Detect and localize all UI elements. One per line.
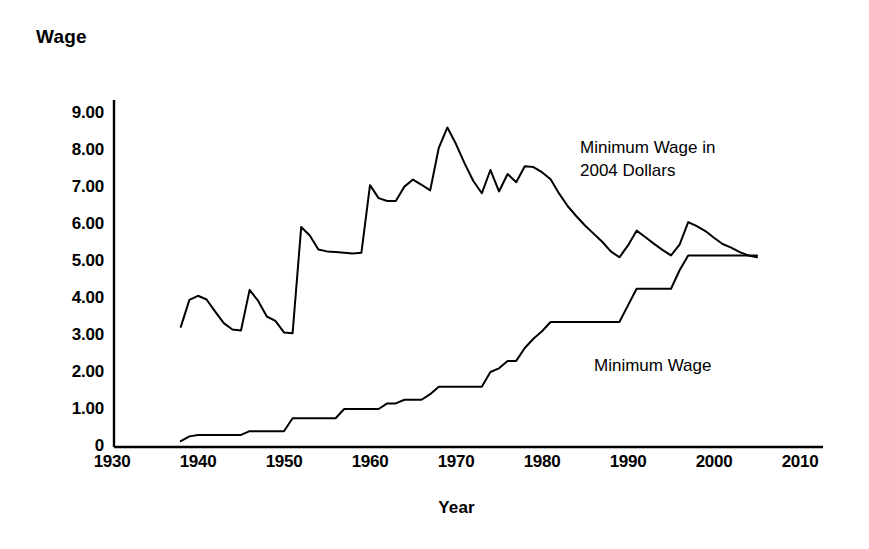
nominal-wage-series-label: Minimum Wage	[594, 354, 711, 377]
line-series-nominal-wage	[181, 255, 757, 441]
axis-lines	[114, 100, 823, 447]
x-axis-title: Year	[438, 498, 475, 517]
plot-area	[0, 0, 869, 549]
real-wage-series-label: Minimum Wage in 2004 Dollars	[580, 136, 715, 182]
chart-figure: Wage 01.002.003.004.005.006.007.008.009.…	[0, 0, 869, 549]
x-axis-title-wrapper: Year	[0, 498, 869, 518]
